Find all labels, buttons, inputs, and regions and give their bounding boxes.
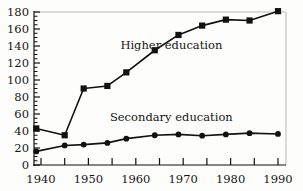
y-tick-label: 0: [22, 158, 29, 172]
plot-frame: [34, 12, 286, 165]
x-axis-minor-ticks: [65, 158, 255, 165]
data-point-marker: [152, 132, 158, 138]
y-axis-tick-labels: 020406080100120140160180: [7, 5, 29, 172]
series-annotations: Higher educationSecondary education: [110, 38, 233, 124]
series-lines: [36, 11, 278, 151]
data-point-marker: [223, 132, 229, 138]
x-tick-label: 1950: [74, 172, 103, 186]
data-point-marker: [123, 69, 129, 75]
y-tick-label: 40: [14, 124, 29, 138]
data-point-marker: [247, 130, 253, 136]
x-tick-label: 1980: [216, 172, 245, 186]
data-point-marker: [199, 133, 205, 139]
data-point-marker: [275, 131, 281, 137]
series-markers: [33, 8, 281, 154]
x-tick-label: 1990: [263, 172, 292, 186]
data-point-marker: [246, 17, 252, 23]
y-tick-label: 140: [7, 39, 29, 53]
data-point-marker: [104, 140, 110, 146]
x-tick-label: 1960: [121, 172, 150, 186]
x-tick-label: 1940: [26, 172, 55, 186]
y-tick-label: 180: [7, 5, 29, 19]
data-point-marker: [62, 132, 68, 138]
data-point-marker: [223, 17, 229, 23]
y-tick-label: 100: [7, 73, 29, 87]
data-point-marker: [123, 136, 129, 142]
series-annotation-label: Higher education: [120, 38, 223, 52]
data-point-marker: [176, 132, 182, 138]
y-tick-label: 160: [7, 22, 29, 36]
data-point-marker: [81, 142, 87, 148]
y-tick-label: 80: [14, 90, 29, 104]
y-axis-minor-ticks: [34, 16, 38, 161]
data-point-marker: [275, 8, 281, 14]
data-point-marker: [62, 143, 68, 149]
line-chart: 020406080100120140160180 194019501960197…: [0, 0, 303, 191]
data-point-marker: [33, 149, 39, 155]
x-tick-label: 1970: [169, 172, 198, 186]
chart-container: 020406080100120140160180 194019501960197…: [0, 0, 303, 191]
y-tick-label: 120: [7, 56, 29, 70]
x-axis-tick-labels: 194019501960197019801990: [26, 172, 292, 186]
data-point-marker: [199, 23, 205, 29]
data-point-marker: [33, 125, 39, 131]
data-point-marker: [81, 85, 87, 91]
series-annotation-label: Secondary education: [110, 110, 233, 124]
y-tick-label: 20: [14, 141, 29, 155]
y-tick-label: 60: [14, 107, 29, 121]
data-point-marker: [104, 83, 110, 89]
